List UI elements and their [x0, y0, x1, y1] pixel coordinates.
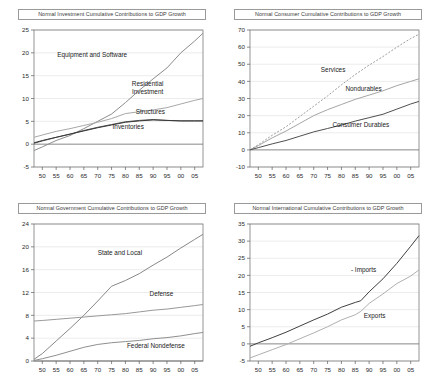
- x-tick-label: 60: [67, 172, 74, 179]
- x-tick-label: 75: [108, 366, 115, 373]
- series-label: State and Local: [98, 249, 142, 256]
- y-tick-label: 12: [22, 289, 29, 296]
- y-tick-label: -5: [23, 163, 29, 170]
- figure-grid: Normal Investment Cumulative Contributio…: [0, 0, 431, 387]
- series-label: Equipment and Software: [57, 51, 127, 59]
- y-tick-label: 10: [238, 306, 245, 313]
- x-tick-label: 85: [136, 366, 143, 373]
- y-tick-label: 0: [242, 340, 246, 347]
- x-tick-label: 85: [136, 172, 143, 179]
- y-tick-label: 60: [238, 43, 245, 50]
- y-tick-label: 10: [238, 129, 245, 136]
- y-tick-label: 15: [22, 72, 29, 79]
- y-tick-label: 16: [22, 266, 29, 273]
- x-tick-label: 90: [150, 172, 157, 179]
- series-label: Consumer Durables: [332, 121, 389, 128]
- y-tick-label: 20: [238, 112, 245, 119]
- series-line: [34, 304, 203, 321]
- x-tick-label: 05: [191, 172, 198, 179]
- x-tick-label: 65: [296, 366, 303, 373]
- x-tick-label: 55: [53, 172, 60, 179]
- x-tick-label: 55: [269, 366, 276, 373]
- series-label: Investment: [132, 88, 163, 95]
- chart-panel-consumer: Normal Consumer Cumulative Contributions…: [216, 0, 431, 193]
- series-label: Inventories: [113, 123, 144, 130]
- x-tick-label: 50: [39, 172, 46, 179]
- x-tick-label: 80: [122, 366, 129, 373]
- x-tick-label: 80: [338, 172, 345, 179]
- y-tick-label: 35: [238, 220, 245, 227]
- y-tick-label: 0: [242, 146, 246, 153]
- series-label: Nondurables: [345, 85, 381, 92]
- plot-consumer: -100102030405060705055606570758085909500…: [216, 0, 431, 193]
- x-tick-label: 90: [150, 366, 157, 373]
- x-tick-label: 70: [310, 172, 317, 179]
- x-tick-label: 85: [352, 366, 359, 373]
- y-tick-label: 24: [22, 220, 29, 227]
- x-tick-label: 95: [380, 172, 387, 179]
- series-line: [250, 236, 419, 347]
- x-tick-label: 60: [283, 366, 290, 373]
- y-tick-label: 40: [238, 78, 245, 85]
- x-tick-label: 60: [67, 366, 74, 373]
- x-tick-label: 05: [407, 172, 414, 179]
- series-line: [34, 99, 203, 138]
- x-tick-label: 00: [177, 172, 184, 179]
- x-tick-label: 50: [39, 366, 46, 373]
- x-tick-label: 70: [94, 366, 101, 373]
- y-tick-label: 20: [238, 272, 245, 279]
- x-tick-label: 05: [407, 366, 414, 373]
- plot-area-government: 04812162024505560657075808590950005State…: [22, 220, 203, 373]
- y-tick-label: 70: [238, 26, 245, 33]
- x-tick-label: 65: [80, 172, 87, 179]
- x-tick-label: 75: [108, 172, 115, 179]
- plot-area-investment: -50510152025505560657075808590950005Equi…: [22, 26, 203, 179]
- y-tick-label: 8: [26, 312, 30, 319]
- x-tick-label: 80: [338, 366, 345, 373]
- chart-panel-international: Normal International Cumulative Contribu…: [216, 194, 431, 387]
- x-tick-label: 60: [283, 172, 290, 179]
- plot-area-international: -505101520253035505560657075808590950005…: [238, 220, 419, 373]
- y-tick-label: 4: [26, 334, 30, 341]
- plot-international: -505101520253035505560657075808590950005…: [216, 194, 431, 387]
- x-tick-label: 90: [366, 172, 373, 179]
- series-line: [250, 270, 419, 358]
- y-tick-label: 10: [22, 95, 29, 102]
- x-tick-label: 95: [164, 366, 171, 373]
- series-line: [250, 79, 419, 150]
- y-tick-label: 15: [238, 289, 245, 296]
- y-tick-label: 30: [238, 237, 245, 244]
- series-label: Structures: [136, 108, 165, 115]
- y-tick-label: 25: [22, 26, 29, 33]
- plot-government: 04812162024505560657075808590950005State…: [0, 194, 215, 387]
- y-tick-label: 0: [26, 357, 30, 364]
- x-tick-label: 75: [324, 366, 331, 373]
- y-tick-label: 30: [238, 95, 245, 102]
- series-label: - Imports: [351, 266, 376, 274]
- series-label: Federal Nondefense: [127, 342, 185, 349]
- y-tick-label: 25: [238, 254, 245, 261]
- x-tick-label: 95: [164, 172, 171, 179]
- chart-panel-investment: Normal Investment Cumulative Contributio…: [0, 0, 215, 193]
- y-tick-label: 20: [22, 243, 29, 250]
- x-tick-label: 05: [191, 366, 198, 373]
- y-tick-label: 20: [22, 49, 29, 56]
- x-tick-label: 00: [393, 366, 400, 373]
- series-label: Services: [321, 66, 346, 73]
- x-tick-label: 00: [393, 172, 400, 179]
- x-tick-label: 75: [324, 172, 331, 179]
- y-tick-label: 0: [26, 140, 30, 147]
- plot-investment: -50510152025505560657075808590950005Equi…: [0, 0, 215, 193]
- chart-panel-government: Normal Government Cumulative Contributio…: [0, 194, 215, 387]
- x-tick-label: 80: [122, 172, 129, 179]
- x-tick-label: 95: [380, 366, 387, 373]
- series-label: Defense: [150, 290, 174, 297]
- x-tick-label: 70: [94, 172, 101, 179]
- series-label: Exports: [364, 312, 386, 320]
- plot-area-consumer: -100102030405060705055606570758085909500…: [236, 26, 419, 179]
- y-tick-label: -5: [239, 357, 245, 364]
- x-tick-label: 00: [177, 366, 184, 373]
- x-tick-label: 50: [255, 172, 262, 179]
- y-tick-label: 50: [238, 60, 245, 67]
- x-tick-label: 55: [53, 366, 60, 373]
